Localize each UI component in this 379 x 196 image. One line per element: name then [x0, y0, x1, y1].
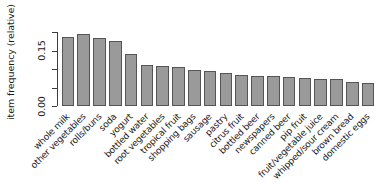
y-axis-tick: [52, 106, 57, 107]
bar[interactable]: [283, 77, 296, 106]
item-frequency-bar-chart: item frequency (relative) 0.000.15 whole…: [0, 0, 379, 196]
bar[interactable]: [299, 78, 312, 106]
bar[interactable]: [172, 67, 185, 106]
y-axis-tick: [52, 51, 57, 52]
bar[interactable]: [141, 65, 154, 106]
bar[interactable]: [188, 70, 201, 106]
y-axis-tick-label: 0.15: [36, 34, 47, 68]
bar[interactable]: [346, 82, 359, 106]
bar[interactable]: [314, 79, 327, 106]
bar[interactable]: [109, 41, 122, 106]
y-axis-title: item frequency (relative): [4, 2, 18, 122]
bar[interactable]: [125, 54, 138, 106]
y-axis-tick: [52, 88, 57, 89]
bar[interactable]: [251, 76, 264, 106]
bar[interactable]: [220, 73, 233, 106]
bar[interactable]: [156, 66, 169, 106]
y-axis-tick: [52, 69, 57, 70]
bar[interactable]: [267, 76, 280, 106]
y-axis-tick: [52, 32, 57, 33]
bar[interactable]: [93, 38, 106, 106]
bar[interactable]: [77, 34, 90, 106]
bar[interactable]: [204, 71, 217, 106]
bar[interactable]: [235, 75, 248, 106]
y-axis-tick-label: 0.00: [36, 89, 47, 123]
bar[interactable]: [330, 79, 343, 106]
bar[interactable]: [362, 83, 375, 106]
y-axis-line: [57, 32, 58, 106]
bar[interactable]: [62, 37, 75, 106]
bars-area: [60, 20, 376, 106]
